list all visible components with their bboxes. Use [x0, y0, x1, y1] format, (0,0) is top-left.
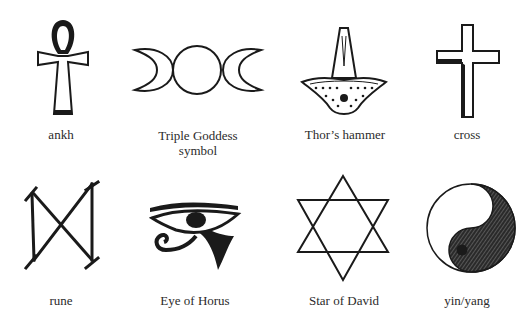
triple-goddess-label-line2: symbol	[158, 143, 237, 158]
rune-icon	[22, 180, 102, 272]
cross-icon	[435, 23, 503, 121]
star-of-david-icon	[294, 172, 392, 284]
ankh-icon	[34, 16, 92, 120]
triple-goddess-label-line1: Triple Goddess	[158, 128, 237, 143]
eye-of-horus-label: Eye of Horus	[160, 293, 229, 308]
thors-hammer-label: Thor’s hammer	[305, 127, 385, 142]
thors-hammer-icon	[298, 26, 390, 120]
cross-label: cross	[454, 127, 481, 142]
star-of-david-label: Star of David	[309, 293, 379, 308]
triple-goddess-icon	[131, 42, 265, 98]
yin-yang-label: yin/yang	[444, 293, 490, 308]
eye-of-horus-icon	[148, 202, 244, 274]
ankh-label: ankh	[48, 127, 73, 142]
yin-yang-icon	[424, 181, 518, 275]
triple-goddess-label: Triple Goddess symbol	[158, 128, 237, 158]
rune-label: rune	[49, 293, 72, 308]
